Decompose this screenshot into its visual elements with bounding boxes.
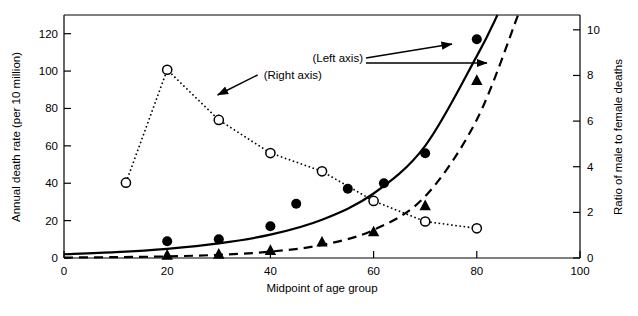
x-tick-label: 40 [264,265,277,277]
data-point-open-circle [121,178,130,187]
data-point-filled-circle [265,221,275,231]
right-tick-label: 10 [587,24,600,36]
data-point-open-circle [214,115,223,124]
left-axis-ticks: 020406080100120 [39,28,71,264]
data-point-filled-triangle [265,244,276,255]
left-tick-label: 40 [45,177,58,189]
data-point-open-circle [421,217,430,226]
data-point-filled-circle [472,34,482,44]
annotation-layer: (Right axis)(Left axis) [218,44,487,95]
x-axis-title: Midpoint of age group [266,282,377,294]
left-tick-label: 0 [52,252,58,264]
right-axis-arrow [218,75,258,95]
left-axis-annotation: (Left axis) [313,52,364,64]
series-male-fitted-curve [64,15,497,254]
data-point-open-circle [266,148,275,157]
data-point-open-circle [317,167,326,176]
right-axis-annotation: (Right axis) [264,69,322,81]
x-tick-label: 100 [570,265,589,277]
data-point-open-circle [369,196,378,205]
data-point-filled-triangle [471,74,482,85]
data-point-open-circle [163,65,172,74]
right-tick-label: 4 [587,161,594,173]
left-axis-arrow-solid [366,44,452,58]
series-line [64,15,497,254]
left-tick-label: 100 [39,65,58,77]
series-male-annual-death-rate [162,34,482,246]
series-line [64,15,518,258]
series-female-fitted-curve [64,15,518,258]
y-axis-title: Annual death rate (per 10 million) [10,52,22,222]
chart-svg: 020406080100120 0246810 020406080100 (Ri… [0,0,638,316]
right-tick-label: 8 [587,69,593,81]
data-point-filled-circle [162,236,172,246]
data-point-open-circle [472,224,481,233]
data-point-filled-circle [291,199,301,209]
data-point-filled-circle [343,184,353,194]
left-tick-label: 120 [39,28,58,40]
left-tick-label: 80 [45,102,58,114]
left-tick-label: 20 [45,215,58,227]
data-series-layer [64,15,518,260]
x-tick-label: 80 [470,265,483,277]
data-point-filled-triangle [161,249,172,260]
right-tick-label: 6 [587,115,593,127]
x-tick-label: 20 [161,265,174,277]
y2-axis-title: Ratio of male to female deaths [612,59,624,215]
x-axis-ticks: 020406080100 [61,251,590,277]
data-point-filled-triangle [213,248,224,259]
right-tick-label: 0 [587,252,593,264]
x-tick-label: 0 [61,265,67,277]
right-axis-ticks: 0246810 [573,24,600,264]
right-tick-label: 2 [587,206,593,218]
left-tick-label: 60 [45,140,58,152]
x-tick-label: 60 [367,265,380,277]
